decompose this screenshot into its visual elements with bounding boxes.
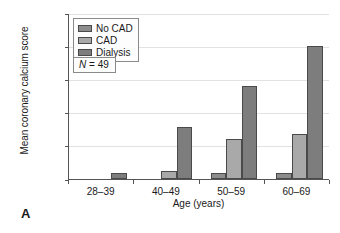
- legend-swatch-icon: [78, 25, 92, 32]
- legend: No CADCADDialysis: [73, 18, 139, 62]
- legend-swatch-icon: [78, 49, 92, 56]
- y-axis-title: Mean coronary calcium score: [19, 6, 30, 176]
- x-tick-label: 60–69: [256, 186, 336, 197]
- y-tick-mark: [65, 146, 69, 147]
- bar-cad-3: [292, 134, 308, 179]
- figure-panel-a: Mean coronary calcium score 05001,0001,5…: [0, 0, 340, 233]
- bar-dialysis-1: [177, 127, 193, 179]
- legend-swatch-icon: [78, 37, 92, 44]
- x-tick-mark: [329, 180, 330, 184]
- legend-item-cad: CAD: [78, 34, 133, 46]
- panel-letter: A: [21, 206, 30, 221]
- gridline: [69, 113, 329, 114]
- sample-size-annotation: N = 49: [73, 57, 116, 73]
- y-tick-mark: [65, 80, 69, 81]
- legend-item-no-cad: No CAD: [78, 22, 133, 34]
- legend-label: CAD: [96, 35, 117, 46]
- x-axis-title: Age (years): [68, 198, 329, 209]
- sample-size-value: = 49: [86, 59, 109, 70]
- gridline: [69, 146, 329, 147]
- bar-dialysis-0: [111, 173, 127, 179]
- gridline: [69, 14, 329, 15]
- y-tick-mark: [65, 113, 69, 114]
- bar-cad-1: [161, 171, 177, 179]
- bar-no-cad-2: [211, 173, 227, 179]
- y-tick-mark: [65, 14, 69, 15]
- bar-dialysis-2: [242, 86, 258, 179]
- bar-no-cad-3: [276, 173, 292, 179]
- x-tick-mark: [68, 180, 69, 184]
- x-tick-mark: [264, 180, 265, 184]
- legend-label: Dialysis: [96, 47, 130, 58]
- bar-dialysis-3: [307, 46, 323, 179]
- x-tick-mark: [133, 180, 134, 184]
- x-tick-mark: [199, 180, 200, 184]
- legend-label: No CAD: [96, 23, 133, 34]
- gridline: [69, 80, 329, 81]
- y-tick-mark: [65, 47, 69, 48]
- bar-cad-2: [226, 139, 242, 179]
